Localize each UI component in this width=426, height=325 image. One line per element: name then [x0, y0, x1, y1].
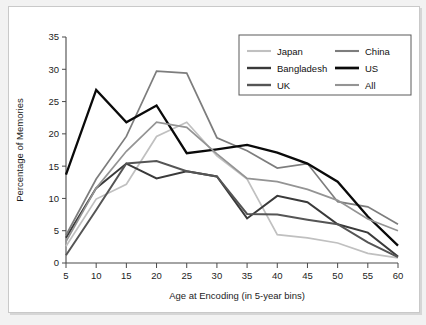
series-line-bangladesh: [66, 164, 398, 257]
x-tick-label: 30: [212, 270, 223, 281]
y-tick-label: 35: [48, 31, 59, 42]
x-tick-label: 10: [91, 270, 102, 281]
x-tick-label: 60: [393, 270, 404, 281]
y-axis-ticks: 05101520253035: [48, 31, 66, 268]
x-tick-label: 40: [272, 270, 283, 281]
y-tick-label: 5: [54, 225, 59, 236]
y-tick-label: 15: [48, 161, 59, 172]
x-tick-label: 35: [242, 270, 253, 281]
legend-label-japan: Japan: [277, 46, 303, 57]
y-tick-label: 20: [48, 128, 59, 139]
y-tick-label: 25: [48, 96, 59, 107]
series-line-all: [66, 122, 398, 241]
x-axis-ticks: 51015202530354045505560: [63, 263, 403, 281]
x-tick-label: 20: [151, 270, 162, 281]
series-line-china: [66, 71, 398, 235]
series-line-japan: [66, 122, 398, 258]
legend-label-all: All: [365, 80, 376, 91]
series-line-uk: [66, 161, 398, 257]
line-chart: 05101520253035 51015202530354045505560 P…: [9, 7, 419, 312]
x-tick-label: 50: [332, 270, 343, 281]
y-axis-title: Percentage of Memories: [14, 98, 25, 202]
x-tick-label: 55: [363, 270, 374, 281]
series-group: [66, 71, 398, 258]
legend-label-us: US: [365, 63, 378, 74]
figure-panel: 05101520253035 51015202530354045505560 P…: [8, 6, 420, 313]
x-axis-title: Age at Encoding (in 5-year bins): [169, 290, 305, 301]
chart-legend: JapanChinaBangladeshUSUKAll: [239, 35, 411, 95]
legend-label-china: China: [365, 46, 391, 57]
x-tick-label: 5: [63, 270, 68, 281]
y-tick-label: 10: [48, 193, 59, 204]
y-tick-label: 30: [48, 64, 59, 75]
x-tick-label: 25: [181, 270, 192, 281]
y-tick-label: 0: [54, 257, 59, 268]
figure-root: 05101520253035 51015202530354045505560 P…: [0, 0, 426, 325]
x-tick-label: 15: [121, 270, 132, 281]
legend-label-uk: UK: [277, 80, 291, 91]
x-tick-label: 45: [302, 270, 313, 281]
legend-label-bangladesh: Bangladesh: [277, 63, 327, 74]
